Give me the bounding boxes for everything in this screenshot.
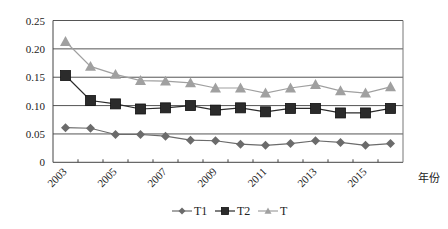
legend-label: T — [280, 204, 288, 218]
diamond-marker — [136, 130, 145, 139]
legend-label: T2 — [237, 204, 250, 218]
triangle-marker — [310, 79, 321, 89]
square-marker — [136, 104, 146, 114]
diamond-marker — [111, 130, 120, 139]
y-tick-label: 0 — [40, 156, 46, 168]
square-marker — [311, 103, 321, 113]
x-axis-tick-labels: 2003200520072009201120132015 — [45, 165, 369, 189]
series-t1 — [61, 123, 395, 150]
series-t — [60, 36, 396, 98]
square-marker — [86, 95, 96, 105]
x-axis-label: 年份 — [418, 171, 440, 184]
x-tick-label: 2005 — [95, 165, 119, 189]
diamond-marker — [236, 140, 245, 149]
square-marker — [386, 103, 396, 113]
y-axis-tick-labels: 00.050.100.150.200.25 — [26, 15, 46, 169]
diamond-marker — [386, 139, 395, 148]
gridlines — [53, 21, 403, 134]
legend-item-t2: T2 — [215, 204, 250, 218]
square-marker — [361, 108, 371, 118]
square-marker — [336, 108, 346, 118]
x-tick-label: 2013 — [295, 165, 319, 189]
triangle-marker — [110, 69, 121, 79]
y-tick-label: 0.15 — [26, 71, 46, 83]
diamond-marker — [336, 138, 345, 147]
diamond-marker — [261, 141, 270, 150]
x-tick-label: 2003 — [45, 165, 69, 189]
legend: T1T2T — [172, 204, 288, 218]
diamond-marker — [211, 136, 220, 145]
y-tick-label: 0.25 — [26, 15, 46, 27]
diamond-marker — [186, 136, 195, 145]
y-tick-label: 0.05 — [26, 128, 46, 140]
square-marker — [161, 103, 171, 113]
diamond-marker — [286, 139, 295, 148]
line-chart: 00.050.100.150.200.25 200320052007200920… — [0, 0, 448, 229]
x-tick-label: 2009 — [195, 165, 219, 189]
diamond-marker — [311, 136, 320, 145]
diamond-marker — [361, 141, 370, 150]
series-lines — [60, 36, 396, 150]
diamond-marker — [61, 123, 70, 132]
x-tick-label: 2015 — [345, 165, 369, 189]
square-marker — [111, 99, 121, 109]
diamond-marker — [161, 132, 170, 141]
triangle-marker — [60, 36, 71, 46]
triangle-marker — [385, 81, 396, 91]
y-tick-label: 0.20 — [26, 43, 46, 55]
square-marker — [236, 103, 246, 113]
square-marker — [61, 71, 71, 81]
legend-item-t: T — [258, 204, 288, 218]
square-marker — [186, 101, 196, 111]
x-tick-label: 2007 — [145, 165, 169, 189]
diamond-marker — [179, 208, 186, 215]
y-tick-label: 0.10 — [26, 100, 46, 112]
x-tick-label: 2011 — [245, 165, 269, 189]
legend-item-t1: T1 — [172, 204, 207, 218]
square-marker — [261, 107, 271, 117]
square-marker — [286, 103, 296, 113]
diamond-marker — [86, 124, 95, 133]
square-marker — [211, 105, 221, 115]
legend-label: T1 — [194, 204, 207, 218]
square-marker — [222, 208, 229, 215]
